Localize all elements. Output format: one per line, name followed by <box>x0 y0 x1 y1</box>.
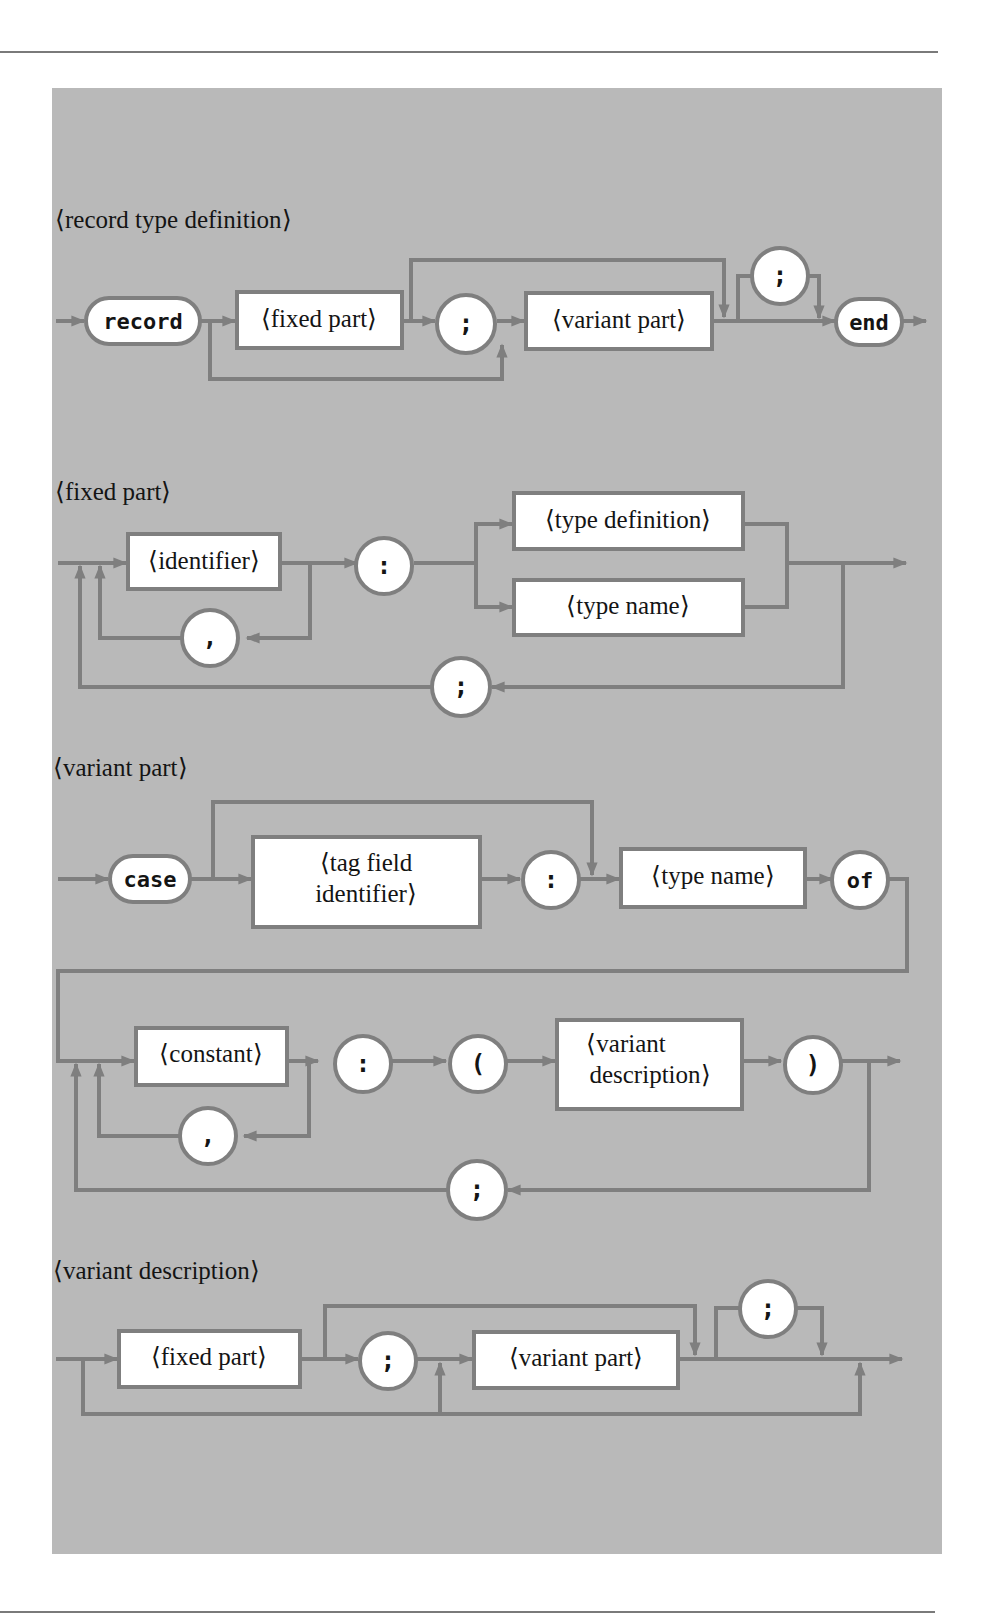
symbol-colon: : <box>335 1036 391 1092</box>
svg-text:of: of <box>847 868 874 893</box>
box-tag-field-identifier: ⟨tag field identifier⟩ <box>253 837 480 927</box>
box-fixed-part: ⟨fixed part⟩ <box>237 292 402 348</box>
diagram-title: ⟨variant description⟩ <box>53 1257 260 1284</box>
variant-part-diagram: ⟨variant part⟩ case ⟨tag field identifie… <box>53 754 907 1219</box>
svg-text:case: case <box>124 867 177 892</box>
symbol-semicolon: ; <box>360 1333 416 1389</box>
svg-text:identifier⟩: identifier⟩ <box>315 880 417 907</box>
svg-text:): ) <box>806 1051 820 1079</box>
symbol-semicolon: ; <box>432 658 490 716</box>
svg-text:end: end <box>849 310 889 335</box>
diagram-title: ⟨record type definition⟩ <box>55 206 292 233</box>
svg-text:;: ; <box>381 1347 395 1375</box>
svg-text:;: ; <box>773 262 787 290</box>
svg-text::: : <box>356 1050 370 1078</box>
symbol-left-paren: ( <box>450 1036 506 1092</box>
svg-text:⟨tag field: ⟨tag field <box>320 849 413 876</box>
svg-text:⟨variant part⟩: ⟨variant part⟩ <box>552 306 687 333</box>
svg-text:⟨type definition⟩: ⟨type definition⟩ <box>545 506 712 533</box>
box-variant-part: ⟨variant part⟩ <box>526 293 712 349</box>
box-type-name: ⟨type name⟩ <box>621 849 805 907</box>
keyword-end: end <box>836 299 902 345</box>
svg-text:;: ; <box>470 1176 484 1204</box>
box-type-name: ⟨type name⟩ <box>514 580 743 635</box>
svg-text:,: , <box>203 624 217 652</box>
svg-text:⟨fixed part⟩: ⟨fixed part⟩ <box>151 1343 267 1370</box>
keyword-case: case <box>110 856 190 902</box>
diagram-title: ⟨variant part⟩ <box>53 754 188 781</box>
svg-text:;: ; <box>459 310 473 338</box>
symbol-semicolon: ; <box>437 295 495 353</box>
syntax-diagrams: ⟨record type definition⟩ record ⟨fixed p… <box>0 0 987 1614</box>
symbol-colon: : <box>523 852 579 908</box>
box-fixed-part: ⟨fixed part⟩ <box>119 1331 300 1387</box>
symbol-semicolon-optional: ; <box>740 1281 796 1337</box>
svg-text:;: ; <box>761 1295 775 1323</box>
box-identifier: ⟨identifier⟩ <box>128 534 280 589</box>
diagram-title: ⟨fixed part⟩ <box>55 478 171 505</box>
box-variant-part: ⟨variant part⟩ <box>474 1332 678 1388</box>
symbol-semicolon-optional: ; <box>752 248 808 304</box>
symbol-semicolon: ; <box>448 1161 506 1219</box>
record-type-definition-diagram: ⟨record type definition⟩ record ⟨fixed p… <box>55 206 926 379</box>
svg-text::: : <box>544 866 558 894</box>
svg-text:description⟩: description⟩ <box>589 1061 710 1088</box>
variant-description-diagram: ⟨variant description⟩ ⟨fixed part⟩ ; ⟨va… <box>53 1257 902 1414</box>
keyword-of: of <box>832 852 888 908</box>
svg-text:;: ; <box>454 673 468 701</box>
svg-text:⟨variant part⟩: ⟨variant part⟩ <box>509 1344 644 1371</box>
svg-text:⟨type name⟩: ⟨type name⟩ <box>566 592 689 619</box>
symbol-colon: : <box>356 538 412 594</box>
svg-text:⟨constant⟩: ⟨constant⟩ <box>159 1040 262 1067</box>
box-type-definition: ⟨type definition⟩ <box>514 493 743 549</box>
svg-text::: : <box>377 552 391 580</box>
fixed-part-diagram: ⟨fixed part⟩ ⟨identifier⟩ : ⟨type defini… <box>55 478 906 716</box>
svg-text:record: record <box>103 309 182 334</box>
svg-text:(: ( <box>471 1050 485 1078</box>
symbol-comma: , <box>180 1108 236 1164</box>
keyword-record: record <box>86 298 200 344</box>
svg-text:⟨type name⟩: ⟨type name⟩ <box>651 862 774 889</box>
svg-text:⟨variant: ⟨variant <box>586 1030 665 1057</box>
box-variant-description: ⟨variant description⟩ <box>557 1020 742 1109</box>
svg-text:⟨fixed part⟩: ⟨fixed part⟩ <box>261 305 377 332</box>
svg-text:,: , <box>201 1122 215 1150</box>
svg-text:⟨identifier⟩: ⟨identifier⟩ <box>148 547 260 574</box>
box-constant: ⟨constant⟩ <box>136 1028 287 1085</box>
symbol-right-paren: ) <box>785 1037 841 1093</box>
symbol-comma: , <box>182 610 238 666</box>
